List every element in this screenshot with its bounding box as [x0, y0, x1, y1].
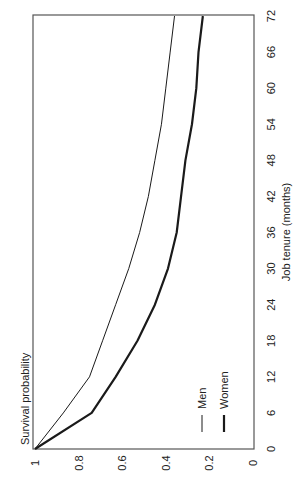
x-tick-label: 0	[265, 446, 277, 452]
series-lines	[35, 16, 203, 449]
x-tick-label: 18	[265, 335, 277, 347]
legend-women-label: Women	[218, 371, 230, 409]
y-tick-label: 0.6	[116, 455, 128, 470]
x-tick-label: 30	[265, 262, 277, 274]
x-tick-label: 12	[265, 371, 277, 383]
x-tick-label: 6	[265, 410, 277, 416]
y-tick-label: 1	[29, 460, 41, 466]
y-tick-label: 0.8	[73, 455, 85, 470]
x-tick-label: 60	[265, 82, 277, 94]
series-line-women	[35, 16, 203, 449]
x-tick-label: 66	[265, 46, 277, 58]
x-axis-title: Job tenure (months)	[280, 183, 292, 281]
x-axis-ticks: 061218243036424854606672	[265, 10, 277, 452]
series-line-men	[35, 16, 175, 449]
x-tick-label: 36	[265, 226, 277, 238]
y-tick-label: 0.2	[203, 455, 215, 470]
x-tick-label: 24	[265, 299, 277, 311]
legend: Men Women	[196, 371, 230, 432]
legend-men-label: Men	[196, 388, 208, 409]
y-tick-label: 0	[247, 460, 259, 466]
survival-chart: 10.80.60.40.20 061218243036424854606672 …	[0, 0, 301, 501]
x-tick-label: 42	[265, 190, 277, 202]
y-axis-title: Survival probability	[19, 352, 31, 445]
x-tick-label: 72	[265, 10, 277, 22]
y-tick-label: 0.4	[160, 455, 172, 470]
x-tick-label: 48	[265, 154, 277, 166]
x-tick-label: 54	[265, 118, 277, 130]
y-axis-ticks: 10.80.60.40.20	[29, 455, 259, 470]
